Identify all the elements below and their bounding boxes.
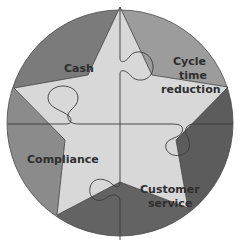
label-cycle-line1: Cycle: [173, 55, 206, 68]
label-customer-line1: Customer: [140, 183, 200, 196]
label-cash: Cash: [64, 62, 94, 75]
label-customer-line2: service: [148, 197, 192, 210]
label-cycle-line3: reduction: [161, 83, 221, 96]
label-compliance: Compliance: [27, 153, 99, 166]
star-puzzle-diagram: Cash Cycle time reduction Compliance Cus…: [0, 0, 240, 247]
label-cycle-line2: time: [179, 69, 207, 82]
